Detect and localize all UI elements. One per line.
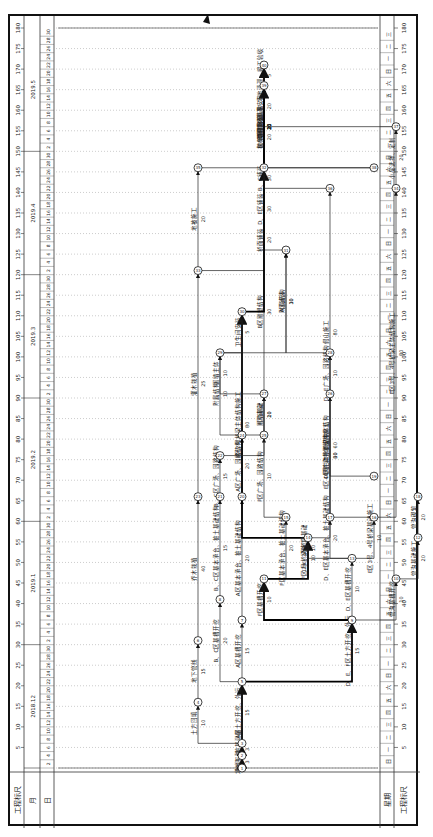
activity-arrow xyxy=(224,254,286,353)
weekday: 五 xyxy=(385,525,391,530)
day-number: 10 xyxy=(46,728,51,734)
scale-tick: 5 xyxy=(15,745,21,749)
weekday: 二 xyxy=(385,735,391,740)
node-number: 11 xyxy=(261,576,267,581)
day-number: 24 xyxy=(46,547,51,553)
day-number: 22 xyxy=(46,62,51,68)
node-number: 4 xyxy=(197,700,200,705)
node-number: 18 xyxy=(415,494,421,499)
weekday: 一 xyxy=(385,574,391,579)
weekday: 三 xyxy=(385,291,391,296)
activity-arrow xyxy=(264,90,326,189)
activity-label: D、E区基槽开挖 xyxy=(344,567,352,611)
event-node: 8 xyxy=(216,595,224,603)
activity-duration: 10 xyxy=(222,370,228,376)
day-number: 6 xyxy=(46,129,51,132)
activity-duration: 20 xyxy=(266,237,272,243)
weekday: 四 xyxy=(385,106,391,111)
scale-tick-bottom: 15 xyxy=(401,702,407,709)
day-number: 28 xyxy=(46,161,51,167)
scale-tick-bottom: 145 xyxy=(401,166,407,177)
day-number: 30 xyxy=(46,152,51,158)
scale-label: 工程标尺 xyxy=(13,786,22,814)
node-number: 20 xyxy=(239,494,245,499)
day-label: 日 xyxy=(44,797,52,804)
weekday: 六 xyxy=(385,254,392,259)
day-number: 24 xyxy=(46,300,51,306)
weekday: 五 xyxy=(385,698,391,703)
day-number: 12 xyxy=(46,350,51,356)
event-node: 27 xyxy=(260,390,268,398)
day-number: 16 xyxy=(46,580,51,586)
scale-tick-bottom: 55 xyxy=(401,538,407,545)
scale-tick: 60 xyxy=(15,517,21,524)
event-node: 26 xyxy=(326,390,334,398)
activity-duration: 20 xyxy=(244,463,250,469)
scale-tick: 90 xyxy=(15,394,21,401)
north-arrow-icon xyxy=(203,14,210,24)
scale-tick-bottom: 75 xyxy=(401,456,407,463)
day-number: 20 xyxy=(46,70,51,76)
scale-tick: 160 xyxy=(15,104,21,115)
weekday: 六 xyxy=(385,81,392,86)
scale-tick: 175 xyxy=(15,43,21,54)
activity-label: 土方回填 xyxy=(190,711,198,735)
node-number: 1 xyxy=(241,766,244,771)
day-number: 2 xyxy=(46,392,51,395)
scale-tick: 40 xyxy=(15,600,21,607)
activity-label: F区2号桥梁主体结构施工 xyxy=(234,391,242,458)
day-number: 20 xyxy=(46,194,51,200)
scale-tick: 35 xyxy=(15,620,21,627)
day-number: 14 xyxy=(46,465,51,471)
activity-duration: 80 xyxy=(244,422,250,428)
month-name: 2019.1 xyxy=(30,573,36,592)
scale-tick: 50 xyxy=(15,558,21,565)
scale-tick-bottom: 165 xyxy=(401,84,407,95)
day-number: 28 xyxy=(46,407,51,413)
day-number: 24 xyxy=(46,670,51,676)
weekday: 三 xyxy=(385,550,391,555)
scale-tick-bottom: 180 xyxy=(401,22,407,33)
event-node: 21 xyxy=(216,493,224,501)
scale-tick-bottom: 10 xyxy=(401,723,407,730)
activity-duration: 40 xyxy=(200,565,206,571)
activity-duration: 20 xyxy=(288,545,294,551)
day-number: 26 xyxy=(46,292,51,298)
node-number: 13 xyxy=(349,556,355,561)
scale-tick-bottom: 175 xyxy=(401,43,407,54)
activity-duration: 30 xyxy=(266,206,272,212)
activity-duration: 15 xyxy=(354,648,360,654)
day-number: 8 xyxy=(46,368,51,371)
node-number: 29 xyxy=(217,350,223,355)
event-node: 28 xyxy=(326,349,334,357)
activity-arrow xyxy=(246,624,352,682)
activity-duration: 20 xyxy=(266,134,272,140)
node-number: 27 xyxy=(261,391,267,396)
day-number: 16 xyxy=(46,333,51,339)
activity-label: B、C区基本承台、桩土基础结构 xyxy=(212,505,220,591)
activity-duration: 10 xyxy=(398,596,404,602)
scale-label-bottom: 工程标尺 xyxy=(399,786,408,814)
activity-label: A区铺装 xyxy=(278,291,286,313)
day-number: 22 xyxy=(46,309,51,315)
activity-label: B、C区基槽开挖 xyxy=(212,619,220,663)
node-number: 7 xyxy=(241,618,244,623)
scale-tick: 55 xyxy=(15,538,21,545)
day-number: 18 xyxy=(46,325,51,331)
scale-tick-bottom: 65 xyxy=(401,497,407,504)
scale-tick-bottom: 130 xyxy=(401,228,407,239)
day-number: 16 xyxy=(46,87,51,93)
activity-duration: 20 xyxy=(420,514,426,520)
activity-arrow xyxy=(264,90,392,127)
event-node: 9 xyxy=(348,616,356,624)
activity-label: 小品选择、定制 xyxy=(388,137,396,179)
node-number: 33 xyxy=(195,268,201,273)
scale-tick: 10 xyxy=(15,723,21,730)
activity-duration: 30 xyxy=(332,452,338,458)
node-number: 8 xyxy=(219,597,222,602)
node-number: 32 xyxy=(261,165,267,170)
day-number: 6 xyxy=(46,746,51,749)
day-number: 20 xyxy=(46,687,51,693)
weekday: 四 xyxy=(385,278,391,283)
day-number: 24 xyxy=(46,424,51,430)
